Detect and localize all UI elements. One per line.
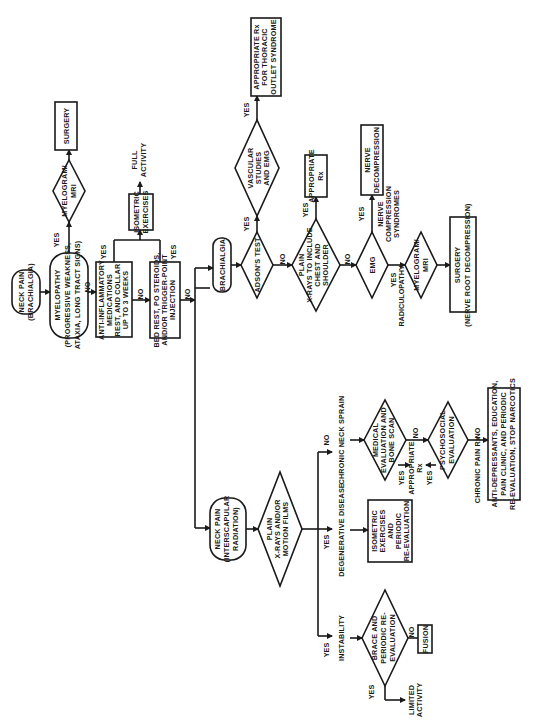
- svg-text:BRACE AND: BRACE AND: [370, 616, 379, 661]
- svg-text:NO: NO: [136, 288, 145, 299]
- svg-text:ADSON'S TEST: ADSON'S TEST: [253, 237, 262, 293]
- box-anti-inflammatory: ANTI-INFLAMMATORY MEDICATIONS REST, AND …: [96, 260, 132, 340]
- svg-text:SYNDROMES: SYNDROMES: [392, 190, 401, 238]
- svg-text:YES: YES: [322, 643, 331, 658]
- box-fusion: FUSION: [418, 625, 432, 653]
- svg-text:(NERVE ROOT DECOMPRESSION): (NERVE ROOT DECOMPRESSION): [463, 203, 472, 327]
- svg-text:ANTI-DEPRESSANTS, EDUCATION,: ANTI-DEPRESSANTS, EDUCATION,: [490, 381, 499, 508]
- decision-plain-xrays-motion: PLAIN X-RAYS AND/OR MOTION FILMS: [258, 472, 302, 586]
- svg-text:YES: YES: [425, 471, 434, 486]
- svg-text:RADIATION): RADIATION): [231, 507, 240, 551]
- svg-text:NO: NO: [343, 253, 352, 264]
- svg-text:Rx: Rx: [316, 171, 325, 181]
- svg-text:YES: YES: [357, 207, 366, 222]
- svg-text:ACTIVITY: ACTIVITY: [415, 683, 424, 717]
- decision-adsons-test: ADSON'S TEST: [241, 232, 273, 298]
- decision-psychosocial: PSYCHOSOCIAL EVALUATION: [428, 402, 468, 478]
- svg-text:DECOMPRESSION: DECOMPRESSION: [372, 127, 381, 194]
- svg-text:(PROGRESSIVE WEAKNESS,: (PROGRESSIVE WEAKNESS,: [63, 243, 72, 348]
- svg-text:NECK PAIN: NECK PAIN: [17, 272, 26, 313]
- flowchart: NECK PAIN (BRACHIALGIA) MYELOPATHY (PROG…: [0, 0, 557, 721]
- decision-brace: BRACE AND PERIODIC RE- EVALUATION: [362, 590, 408, 686]
- svg-text:AND EMG: AND EMG: [262, 150, 271, 186]
- svg-text:ISOMETRIC: ISOMETRIC: [132, 191, 141, 233]
- svg-text:YES: YES: [397, 471, 406, 486]
- box-chronic-pain-rx: ANTI-DEPRESSANTS, EDUCATION, PAIN CLINIC…: [488, 378, 520, 510]
- svg-text:EMG: EMG: [368, 256, 377, 273]
- svg-text:BRACHIALGIA: BRACHIALGIA: [218, 239, 227, 292]
- svg-text:CHRONIC PAIN Rx: CHRONIC PAIN Rx: [473, 437, 482, 503]
- start-node-neck-pain: NECK PAIN (BRACHIALGIA): [12, 263, 40, 321]
- svg-text:MYELOPATHY: MYELOPATHY: [53, 270, 62, 321]
- svg-text:PERIODIC RE-: PERIODIC RE-: [379, 612, 388, 664]
- svg-text:EXERCISES: EXERCISES: [141, 191, 150, 234]
- svg-text:NO: NO: [322, 434, 331, 445]
- svg-text:NO: NO: [83, 281, 92, 292]
- svg-text:RE-EVALUATION: RE-EVALUATION: [402, 501, 411, 562]
- decision-medical-evaluation: MEDICAL EVALUATION AND BONE SCAN: [364, 400, 406, 480]
- svg-text:SURGERY: SURGERY: [453, 247, 462, 284]
- svg-text:FOR THORACIC: FOR THORACIC: [260, 28, 269, 86]
- box-nerve-decompression: NERVE DECOMPRESSION: [361, 125, 383, 195]
- box-isometric-periodic: ISOMETRIC EXERCISES AND PERIODIC RE-EVAL…: [368, 500, 412, 562]
- svg-text:UP TO 3 WEEKS: UP TO 3 WEEKS: [121, 271, 130, 330]
- decision-vascular-studies: VASCULAR STUDIES AND EMG: [235, 120, 279, 216]
- decision-myelogram-mri-2: MYELOGRAM/ MRI: [405, 232, 437, 298]
- decision-myelopathy: MYELOPATHY (PROGRESSIVE WEAKNESS, ATAXIA…: [50, 240, 88, 349]
- svg-text:MOTION FILMS: MOTION FILMS: [281, 502, 290, 557]
- svg-text:PAIN CLINIC, AND PERIODIC: PAIN CLINIC, AND PERIODIC: [499, 392, 508, 496]
- svg-text:FULL: FULL: [130, 150, 139, 170]
- svg-text:DEGENERATIVE DISEASE: DEGENERATIVE DISEASE: [337, 483, 346, 577]
- svg-text:NO: NO: [407, 626, 416, 637]
- box-surgery-nerve-root: SURGERY (NERVE ROOT DECOMPRESSION): [450, 203, 476, 327]
- box-appropriate-rx-1: APPROPRIATE Rx: [305, 149, 327, 203]
- svg-text:NO: NO: [278, 253, 287, 264]
- svg-text:YES: YES: [52, 233, 61, 248]
- svg-text:YES: YES: [322, 535, 331, 550]
- svg-text:SHOULDER: SHOULDER: [321, 243, 330, 286]
- svg-text:OUTLET SYNDROME: OUTLET SYNDROME: [269, 19, 278, 94]
- svg-text:YES: YES: [242, 103, 251, 118]
- svg-text:PSYCHOSOCIAL: PSYCHOSOCIAL: [438, 410, 447, 470]
- svg-text:(BRACHIALGIA): (BRACHIALGIA): [26, 263, 35, 321]
- svg-text:CHRONIC NECK SPRAIN: CHRONIC NECK SPRAIN: [337, 396, 346, 485]
- decision-myelogram-mri-1: MYELOGRAM/ MRI: [53, 160, 85, 222]
- box-surgery: SURGERY: [55, 102, 77, 150]
- svg-text:NECK PAIN: NECK PAIN: [213, 509, 222, 550]
- svg-text:MRI: MRI: [421, 258, 430, 272]
- svg-text:ATAXIA, LONG TRACT SIGNS): ATAXIA, LONG TRACT SIGNS): [73, 240, 82, 349]
- svg-text:ACTIVITY: ACTIVITY: [139, 143, 148, 177]
- svg-text:BONE SCAN: BONE SCAN: [387, 418, 396, 463]
- box-thoracic-outlet-rx: APPROPRIATE Rx FOR THORACIC OUTLET SYNDR…: [251, 18, 281, 96]
- svg-text:NO: NO: [473, 427, 482, 438]
- node-brachialgia: BRACHIALGIA: [213, 238, 231, 292]
- box-isometric-exercises: ISOMETRIC EXERCISES: [129, 191, 153, 234]
- svg-text:APPROPRIATE: APPROPRIATE: [307, 149, 316, 203]
- svg-text:INSTABILITY: INSTABILITY: [337, 615, 346, 661]
- svg-text:MYELOGRAM/: MYELOGRAM/: [60, 165, 69, 217]
- svg-text:MRI: MRI: [69, 184, 78, 198]
- svg-text:INJECTION: INJECTION: [168, 280, 177, 320]
- svg-text:EVALUATION: EVALUATION: [388, 614, 397, 662]
- svg-text:YES: YES: [169, 245, 178, 260]
- svg-text:Rx: Rx: [415, 463, 424, 473]
- svg-text:NERVE: NERVE: [363, 147, 372, 173]
- svg-text:MYELOGRAM/: MYELOGRAM/: [412, 239, 421, 291]
- svg-text:YES: YES: [367, 685, 376, 700]
- decision-plain-xrays-chest: PLAIN X-RAYS TO INCLUDE CHEST AND SHOULD…: [292, 219, 340, 311]
- node-neck-pain-interscapular: NECK PAIN (INTERSCAPULAR RADIATION): [210, 495, 246, 562]
- svg-text:YES: YES: [301, 203, 310, 218]
- svg-text:YES: YES: [242, 217, 251, 232]
- svg-text:FUSION: FUSION: [421, 625, 430, 653]
- svg-text:SURGERY: SURGERY: [62, 108, 71, 145]
- svg-text:NO: NO: [183, 288, 192, 299]
- svg-text:RADICULOPATHY: RADICULOPATHY: [397, 265, 406, 326]
- svg-text:NO: NO: [411, 427, 420, 438]
- svg-text:EVALUATION: EVALUATION: [447, 416, 456, 464]
- svg-text:(INTERSCAPULAR: (INTERSCAPULAR: [222, 495, 231, 562]
- svg-text:RE-EVALUATION, STOP NARCOTICS: RE-EVALUATION, STOP NARCOTICS: [508, 378, 517, 510]
- box-bed-rest: BED REST, PO STEROIDS, AND/OR TRIGGER-PO…: [150, 252, 180, 347]
- svg-text:YES: YES: [99, 245, 108, 260]
